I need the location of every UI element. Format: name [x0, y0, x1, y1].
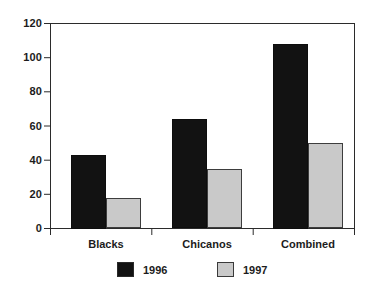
legend-swatch-1996-icon: [117, 262, 134, 277]
y-tick-label-40: 40: [8, 154, 42, 166]
legend-label-1996: 1996: [143, 264, 167, 276]
x-category-label-chicanos: Chicanos: [157, 238, 257, 250]
bar-blacks-1997: [106, 198, 141, 229]
y-tick-label-20: 20: [8, 188, 42, 200]
bar-combined-1996: [273, 44, 308, 229]
y-tick-label-0: 0: [8, 222, 42, 234]
bar-blacks-1996: [71, 155, 106, 229]
bar-combined-1997: [308, 143, 343, 228]
y-tick-label-100: 100: [8, 51, 42, 63]
x-category-label-combined: Combined: [258, 238, 358, 250]
bar-chicanos-1996: [172, 119, 207, 228]
y-axis-ticks: [44, 24, 51, 229]
y-tick-label-120: 120: [8, 17, 42, 29]
y-tick-label-60: 60: [8, 120, 42, 132]
bar-chart: 120 100 80 60 40 20 0 Blacks Chicanos Co…: [0, 0, 375, 286]
x-axis-ticks: [51, 229, 355, 236]
bar-chicanos-1997: [207, 169, 242, 229]
legend-label-1997: 1997: [243, 264, 267, 276]
x-category-label-blacks: Blacks: [56, 238, 156, 250]
legend-swatch-1997-icon: [217, 262, 234, 277]
y-tick-label-80: 80: [8, 85, 42, 97]
